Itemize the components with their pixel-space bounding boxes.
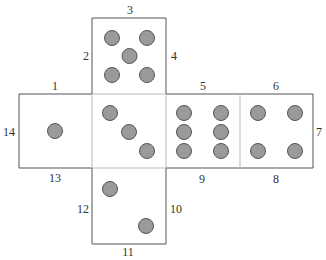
pip <box>214 125 229 140</box>
pip <box>105 31 120 46</box>
pip <box>214 106 229 121</box>
edge-label-9: 9 <box>199 172 205 186</box>
pip <box>103 182 118 197</box>
pip <box>288 106 303 121</box>
pip <box>177 144 192 159</box>
pip <box>251 144 266 159</box>
edge-label-12: 12 <box>77 202 89 216</box>
pip <box>48 124 63 139</box>
die-net-diagram: 1 2 3 4 5 6 7 8 9 10 11 12 13 14 <box>0 0 326 260</box>
edge-label-8: 8 <box>273 172 279 186</box>
pip <box>140 31 155 46</box>
edge-label-4: 4 <box>171 49 177 63</box>
edge-label-14: 14 <box>3 125 15 139</box>
face-right1 <box>177 106 229 159</box>
pip <box>140 68 155 83</box>
face-bottom <box>103 182 154 234</box>
face-left <box>48 124 63 139</box>
pip <box>139 219 154 234</box>
pip <box>103 106 118 121</box>
pip <box>177 106 192 121</box>
edge-label-2: 2 <box>83 49 89 63</box>
edge-label-10: 10 <box>170 202 182 216</box>
pip <box>177 125 192 140</box>
pip <box>122 125 137 140</box>
face-center <box>103 106 155 159</box>
edge-label-5: 5 <box>200 79 206 93</box>
pip <box>105 68 120 83</box>
pip <box>122 49 137 64</box>
edge-label-11: 11 <box>122 245 134 259</box>
edge-label-13: 13 <box>49 171 61 185</box>
face-right2 <box>251 106 303 159</box>
edge-label-7: 7 <box>316 125 322 139</box>
edge-label-1: 1 <box>52 79 58 93</box>
pip <box>251 106 266 121</box>
edge-label-6: 6 <box>273 79 279 93</box>
pip <box>214 144 229 159</box>
face-top <box>105 31 155 83</box>
edge-label-3: 3 <box>127 3 133 17</box>
pip <box>288 144 303 159</box>
pip <box>140 144 155 159</box>
